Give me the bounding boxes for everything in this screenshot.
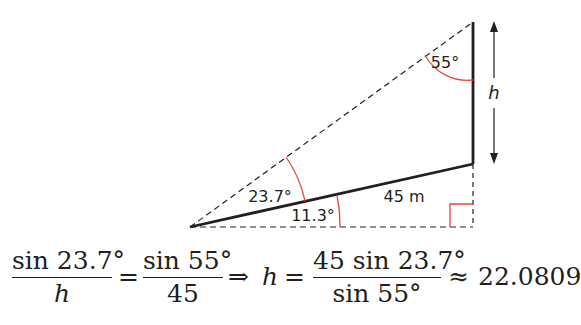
variable-h: h	[262, 262, 278, 292]
triangle-diagram: 55° 23.7° 11.3° 45 m h	[0, 0, 575, 240]
approx-sign: ≈	[448, 262, 469, 292]
fraction-denominator: h	[12, 279, 112, 309]
result-value: 22.0809	[478, 262, 581, 292]
arrow-up-icon	[490, 21, 498, 32]
law-of-sines-equation: sin 23.7° h = sin 55° 45 ⇒ h = 45 sin 23…	[0, 240, 575, 325]
fraction-denominator: sin 55°	[313, 279, 441, 309]
angle-label-23-7: 23.7°	[248, 187, 292, 206]
angle-label-55: 55°	[431, 53, 459, 72]
fraction-bar	[12, 277, 112, 278]
side-label-45m: 45 m	[383, 187, 424, 206]
arc-11-3	[337, 195, 340, 227]
right-angle-marker	[450, 204, 473, 227]
equals-sign: =	[118, 262, 139, 292]
fraction-bar	[143, 277, 223, 278]
fraction-bar	[313, 277, 441, 278]
fraction-numerator: sin 55°	[143, 246, 223, 276]
fraction-sin55-over-45: sin 55° 45	[143, 246, 223, 309]
arrow-down-icon	[490, 153, 498, 164]
fraction-solution: 45 sin 23.7° sin 55°	[313, 246, 441, 309]
fraction-numerator: 45 sin 23.7°	[313, 246, 441, 276]
fraction-numerator: sin 23.7°	[12, 246, 112, 276]
equals-sign: =	[284, 262, 305, 292]
angle-label-11-3: 11.3°	[291, 206, 335, 225]
height-label-h: h	[488, 82, 499, 103]
fraction-sin23-over-h: sin 23.7° h	[12, 246, 112, 309]
fraction-denominator: 45	[143, 279, 223, 309]
implies-arrow: ⇒	[228, 262, 249, 292]
